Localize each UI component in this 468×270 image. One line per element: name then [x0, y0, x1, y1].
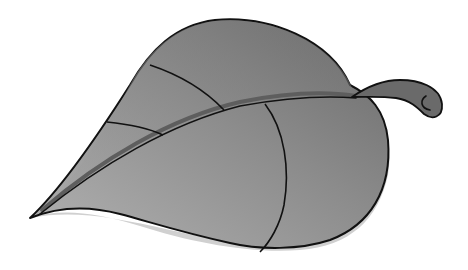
leaf-svg [0, 0, 468, 270]
leaf-illustration: leaf illustration [0, 0, 468, 270]
